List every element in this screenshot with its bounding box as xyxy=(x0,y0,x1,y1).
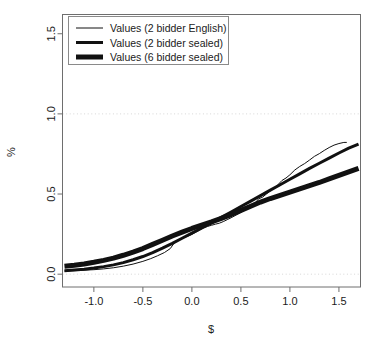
legend-label: Values (6 bidder sealed) xyxy=(110,51,223,63)
chart-container: -1.0-0.50.00.51.01.5 0.00.51.01.5 $ % Va… xyxy=(0,0,381,347)
legend-label: Values (2 bidder English) xyxy=(110,22,227,34)
gridlines xyxy=(63,114,361,274)
legend-label: Values (2 bidder sealed) xyxy=(110,37,223,49)
x-tick-label: 1.5 xyxy=(331,295,346,307)
series-line xyxy=(64,142,346,271)
x-tick-label: 1.0 xyxy=(282,295,297,307)
series-line xyxy=(64,144,358,271)
y-axis: 0.00.51.01.5 xyxy=(46,26,63,282)
y-tick-label: 0.5 xyxy=(46,186,58,201)
x-tick-label: 0.0 xyxy=(184,295,199,307)
x-axis: -1.0-0.50.00.51.01.5 xyxy=(84,287,346,307)
x-tick-label: -1.0 xyxy=(84,295,103,307)
y-tick-label: 1.5 xyxy=(46,26,58,41)
y-tick-label: 0.0 xyxy=(46,267,58,282)
legend: Values (2 bidder English)Values (2 bidde… xyxy=(69,17,229,65)
y-axis-title: % xyxy=(5,147,17,157)
x-axis-title: $ xyxy=(208,323,214,335)
series-lines xyxy=(64,142,358,271)
x-tick-label: 0.5 xyxy=(233,295,248,307)
line-chart: -1.0-0.50.00.51.01.5 0.00.51.01.5 $ % Va… xyxy=(0,0,381,347)
series-line xyxy=(64,168,358,266)
x-tick-label: -0.5 xyxy=(133,295,152,307)
y-tick-label: 1.0 xyxy=(46,106,58,121)
